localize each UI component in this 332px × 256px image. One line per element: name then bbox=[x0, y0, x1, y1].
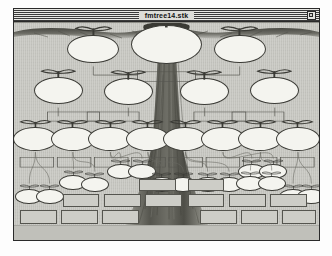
name-label-box[interactable] bbox=[282, 210, 316, 224]
zoom-box-icon[interactable] bbox=[307, 11, 316, 20]
person-bubble[interactable] bbox=[128, 164, 156, 180]
name-label-box[interactable] bbox=[229, 194, 266, 207]
screenshot-root: fmtree14.stk bbox=[0, 0, 332, 256]
person-bubble[interactable] bbox=[258, 176, 286, 192]
name-label-box[interactable] bbox=[241, 210, 278, 224]
window-title: fmtree14.stk bbox=[139, 11, 195, 20]
person-bubble[interactable] bbox=[67, 35, 119, 64]
name-label-box[interactable] bbox=[61, 210, 98, 224]
person-bubble[interactable] bbox=[104, 78, 153, 105]
name-label-box[interactable] bbox=[139, 179, 176, 191]
name-label-box[interactable] bbox=[188, 179, 225, 191]
window-title-bar[interactable]: fmtree14.stk bbox=[14, 9, 319, 22]
person-bubble[interactable] bbox=[180, 78, 229, 105]
name-label-box[interactable] bbox=[104, 194, 141, 207]
name-label-box[interactable] bbox=[20, 225, 57, 238]
name-label-box[interactable] bbox=[102, 210, 139, 224]
name-label-box[interactable] bbox=[188, 194, 225, 207]
person-bubble[interactable] bbox=[276, 127, 319, 151]
name-label-box[interactable] bbox=[282, 225, 316, 238]
person-bubble[interactable] bbox=[131, 25, 201, 64]
tree-canvas[interactable] bbox=[14, 22, 319, 240]
person-bubble[interactable] bbox=[214, 35, 266, 64]
name-label-box[interactable] bbox=[61, 225, 98, 238]
name-label-box[interactable] bbox=[145, 194, 182, 207]
person-bubble[interactable] bbox=[81, 177, 109, 193]
application-window: fmtree14.stk bbox=[13, 8, 320, 241]
name-label-box[interactable] bbox=[200, 210, 237, 224]
person-bubble[interactable] bbox=[250, 77, 299, 104]
person-bubble[interactable] bbox=[36, 189, 64, 205]
person-bubble[interactable] bbox=[34, 77, 83, 104]
name-label-box[interactable] bbox=[20, 210, 57, 224]
name-label-box[interactable] bbox=[241, 225, 278, 238]
name-label-box[interactable] bbox=[63, 194, 100, 207]
name-label-box[interactable] bbox=[270, 194, 307, 207]
